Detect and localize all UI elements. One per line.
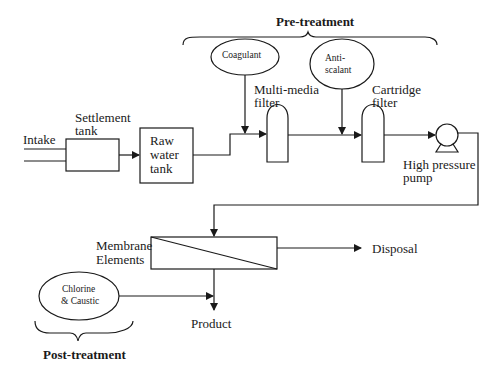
membrane-label-1: Membrane [96,239,152,253]
post-treatment-brace [35,321,133,341]
high-pressure-pump [436,124,458,146]
raw-water-tank-label-2: water [150,148,179,162]
cartridge-filter-label-2: filter [372,96,397,110]
antiscalant-ellipse [310,39,374,89]
antiscalant-label-1: Anti- [325,54,345,64]
antiscalant-label-2: scalant [325,66,351,76]
pump-label-2: pump [403,171,433,185]
raw-water-tank-label-1: Raw [150,134,174,148]
multimedia-filter-label-2: filter [254,96,279,110]
settlement-tank [66,139,119,171]
pre-treatment-brace [183,32,437,45]
product-label: Product [191,317,231,331]
intake-label: Intake [23,133,55,147]
raw-water-tank-label-3: tank [150,162,172,176]
membrane-label-2: Elements [96,253,144,267]
chlorine-label-2: & Caustic [61,297,99,307]
coagulant-label: Coagulant [222,51,261,61]
pre-treatment-label: Pre-treatment [276,15,354,29]
cartridge-filter [362,105,384,163]
disposal-label: Disposal [372,242,418,256]
multimedia-filter [267,105,288,163]
post-treatment-label: Post-treatment [43,348,126,362]
settlement-tank-label-2: tank [75,124,97,138]
chlorine-label-1: Chlorine [62,285,95,295]
